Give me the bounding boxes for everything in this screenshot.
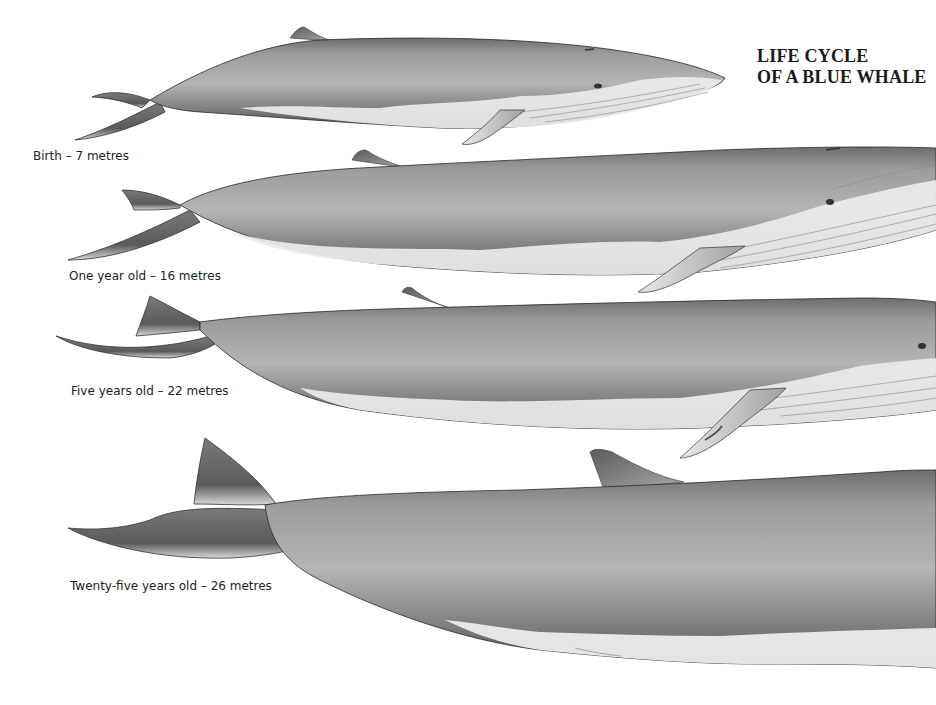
title-line-1: LIFE CYCLE [757, 46, 927, 67]
tail-fluke-icon [194, 438, 276, 505]
title-line-2: OF A BLUE WHALE [757, 67, 927, 88]
caption-birth: Birth – 7 metres [33, 149, 129, 163]
whale-birth [75, 27, 725, 145]
tail-fluke-icon [92, 93, 150, 108]
caption-five-years: Five years old – 22 metres [71, 384, 229, 398]
tail-fluke-icon [122, 190, 180, 210]
dorsal-fin-icon [352, 150, 408, 168]
whale-illustration [0, 0, 936, 705]
tail-fluke-icon [136, 296, 200, 336]
whale-five-years [56, 287, 936, 458]
dorsal-fin-icon [290, 27, 332, 41]
page-title: LIFE CYCLE OF A BLUE WHALE [757, 46, 927, 88]
dorsal-fin-icon [402, 287, 456, 310]
caption-one-year: One year old – 16 metres [69, 269, 221, 283]
caption-twenty-five-years: Twenty-five years old – 26 metres [70, 579, 272, 593]
whale-twenty-five-years [68, 438, 936, 668]
